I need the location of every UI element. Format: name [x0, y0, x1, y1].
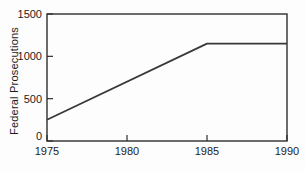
x-tick-label: 1990 [275, 145, 299, 157]
y-tick-label: 1500 [18, 8, 42, 20]
y-tick-label: 500 [24, 93, 42, 105]
y-tick-label: 1000 [18, 50, 42, 62]
y-tick-label: 0 [36, 130, 42, 142]
line-chart: 1975198019851990050010001500 [0, 0, 305, 173]
x-tick-label: 1975 [35, 145, 59, 157]
chart-figure: Federal Prosecutions 1975198019851990050… [0, 0, 305, 173]
axis-frame [47, 14, 287, 141]
data-line [47, 44, 287, 120]
x-tick-label: 1985 [195, 145, 219, 157]
x-tick-label: 1980 [115, 145, 139, 157]
